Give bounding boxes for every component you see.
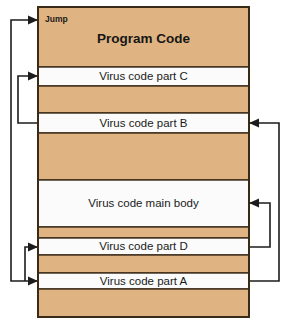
band-label-virus-part-d: Virus code part D — [99, 240, 188, 252]
band-program-code-gap-1 — [38, 86, 249, 113]
band-program-code-bottom — [38, 289, 249, 317]
band-program-code-gap-2 — [38, 133, 249, 180]
diagram-canvas: Program CodeVirus code part CVirus code … — [0, 0, 290, 330]
band-label-virus-part-a: Virus code part A — [100, 275, 188, 287]
arrowhead-into-part-b — [249, 119, 259, 128]
band-program-code-gap-4 — [38, 255, 249, 273]
jump-flow-main-body-to-part-d — [249, 203, 270, 247]
arrowhead-into-part-c — [28, 72, 38, 81]
virus-infection-diagram: Program CodeVirus code part CVirus code … — [0, 0, 290, 330]
band-label-virus-part-c: Virus code part C — [99, 70, 188, 82]
jump-flow-to-part-d — [25, 247, 38, 281]
arrowhead-into-program-start — [28, 16, 38, 25]
arrowhead-into-main-body — [249, 199, 259, 208]
arrowhead-into-part-d — [28, 243, 38, 252]
code-bands-group — [38, 7, 249, 317]
page-title: Program Code — [97, 31, 191, 46]
jump-flow-part-b-to-part-c — [18, 76, 38, 123]
arrowhead-into-part-a — [28, 277, 38, 286]
band-label-virus-main-body: Virus code main body — [88, 197, 199, 209]
jump-flow-part-a-to-program-start — [11, 20, 38, 281]
band-label-virus-part-b: Virus code part B — [99, 117, 187, 129]
jump-label: Jump — [45, 14, 68, 24]
band-program-code-gap-3 — [38, 227, 249, 238]
